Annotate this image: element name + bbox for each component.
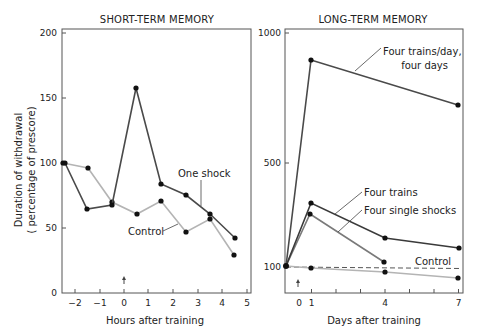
- right-ytick-100: 100: [264, 262, 281, 272]
- figure: SHORT-TERM MEMORY 200 150 100 50 0 −2 −1…: [0, 0, 482, 336]
- annotation-four-trains-day-leader: [355, 48, 381, 71]
- right-ytick-500: 500: [264, 158, 281, 168]
- left-x-axis: [75, 289, 247, 293]
- left-plot-frame: [62, 29, 251, 293]
- annotation-four-trains-leader: [335, 192, 362, 214]
- left-x-axis-label: Hours after training: [106, 315, 204, 326]
- left-xtick-2: 2: [170, 298, 176, 308]
- left-xtick-0: 0: [121, 298, 127, 308]
- left-ytick-50: 50: [46, 223, 58, 233]
- right-x-axis-label: Days after training: [327, 315, 421, 326]
- left-xtick-5: 5: [244, 298, 250, 308]
- right-xtick-1: 1: [309, 298, 315, 308]
- training-arrow-icon: [296, 279, 300, 287]
- annotation-four-single-shocks-leader: [338, 210, 362, 232]
- y-axis-label-line1: Duration of withdrawal: [13, 113, 24, 227]
- right-series-four-trains-per-day: [286, 57, 461, 266]
- left-y-axis: [62, 33, 66, 228]
- annotation-control-right: Control: [415, 256, 451, 267]
- left-xtick-1: 1: [145, 298, 151, 308]
- annotation-four-trains-day-line1: Four trains/day,: [383, 46, 462, 57]
- right-chart-title: LONG-TERM MEMORY: [318, 14, 428, 25]
- annotation-four-trains: Four trains: [364, 187, 418, 198]
- left-ytick-100: 100: [40, 158, 57, 168]
- annotation-control-left-leader: [163, 224, 178, 231]
- right-xtick-0: 0: [296, 298, 302, 308]
- short-term-memory-chart: SHORT-TERM MEMORY 200 150 100 50 0 −2 −1…: [13, 14, 251, 326]
- right-y-axis: [285, 33, 289, 267]
- right-x-axis: [312, 289, 459, 293]
- left-xtick-neg1: −1: [93, 298, 106, 308]
- annotation-four-single-shocks: Four single shocks: [364, 205, 456, 216]
- right-series-four-single-shocks: [286, 211, 387, 266]
- annotation-control-left: Control: [128, 226, 164, 237]
- training-arrow-icon: [122, 276, 126, 284]
- right-initial-point: [283, 263, 289, 269]
- annotation-one-shock: One shock: [178, 168, 231, 179]
- left-xtick-3: 3: [195, 298, 201, 308]
- left-ytick-200: 200: [40, 28, 57, 38]
- left-ytick-150: 150: [40, 93, 57, 103]
- right-xtick-4: 4: [382, 298, 388, 308]
- right-series-control: [286, 265, 461, 280]
- left-xtick-4: 4: [219, 298, 225, 308]
- long-term-memory-chart: LONG-TERM MEMORY 1000 500 100 0 1 4 7 Da…: [258, 14, 463, 326]
- right-ytick-1000: 1000: [258, 28, 281, 38]
- left-ytick-0: 0: [51, 288, 57, 298]
- right-xtick-7: 7: [456, 298, 462, 308]
- annotation-four-trains-day-line2: four days: [401, 60, 448, 71]
- y-axis-label-line2: ( percentage of prescore): [26, 106, 37, 233]
- left-chart-title: SHORT-TERM MEMORY: [100, 14, 215, 25]
- left-xtick-neg2: −2: [68, 298, 81, 308]
